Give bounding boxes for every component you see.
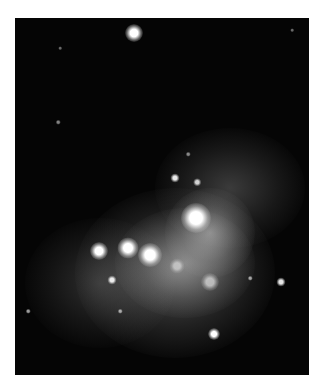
nebula-glow <box>155 128 305 248</box>
star <box>277 278 286 287</box>
star <box>58 46 62 50</box>
star <box>208 328 220 340</box>
star <box>193 178 201 186</box>
star <box>118 309 123 314</box>
star <box>108 276 117 285</box>
star <box>186 152 191 157</box>
star <box>201 273 219 291</box>
nebula-glow <box>25 218 175 348</box>
star <box>248 276 253 281</box>
star <box>26 309 31 314</box>
nebula-photograph <box>15 18 309 375</box>
star <box>118 238 139 259</box>
star <box>125 24 143 42</box>
star <box>170 259 185 274</box>
star <box>138 243 162 267</box>
star <box>290 28 294 32</box>
star <box>56 120 61 125</box>
star <box>181 203 211 233</box>
star <box>90 242 108 260</box>
star <box>171 174 180 183</box>
